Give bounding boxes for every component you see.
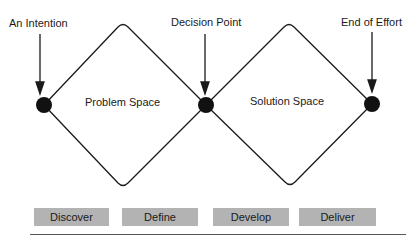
marker-label-intention: An Intention — [9, 17, 68, 30]
phase-deliver: Deliver — [299, 208, 376, 226]
solution-space-label: Solution Space — [250, 95, 324, 108]
phase-develop: Develop — [213, 208, 289, 226]
marker-label-decision-point: Decision Point — [171, 16, 241, 29]
phase-define: Define — [122, 208, 198, 226]
baseline-divider — [30, 234, 406, 235]
phase-discover: Discover — [34, 208, 109, 226]
double-diamond-graphic — [0, 0, 416, 240]
problem-space-label: Problem Space — [85, 96, 160, 109]
start-node-icon — [36, 97, 52, 113]
marker-label-end-of-effort: End of Effort — [341, 16, 402, 29]
decision-node-icon — [198, 97, 214, 113]
end-node-icon — [364, 96, 380, 112]
